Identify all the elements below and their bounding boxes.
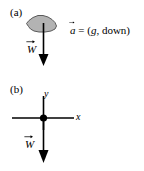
acceleration-symbol-letter: a (70, 24, 76, 36)
y-axis-label: y (44, 89, 48, 99)
acceleration-equation: a = (g, down) (70, 25, 130, 36)
equation-equals-open: = ( (76, 24, 91, 36)
x-axis-label: x (76, 112, 80, 122)
physics-figure-free-body-diagram: (a) (b) a = (g, down) W W y x (0, 0, 144, 171)
weight-vector-label-b: W (25, 139, 34, 150)
weight-symbol-letter-b: W (25, 138, 34, 150)
weight-vector-symbol-b: W (25, 139, 34, 150)
acceleration-vector-symbol: a (70, 25, 76, 36)
weight-vector-label-a: W (27, 44, 36, 55)
weight-symbol-letter-a: W (27, 43, 36, 55)
weight-vector-symbol-a: W (27, 44, 36, 55)
equation-close-paren: ) (126, 24, 130, 36)
object-blob-shape (27, 16, 57, 33)
weight-vector-head-b (39, 150, 49, 163)
weight-vector-head-a (39, 54, 49, 66)
equation-direction: down (102, 24, 126, 36)
